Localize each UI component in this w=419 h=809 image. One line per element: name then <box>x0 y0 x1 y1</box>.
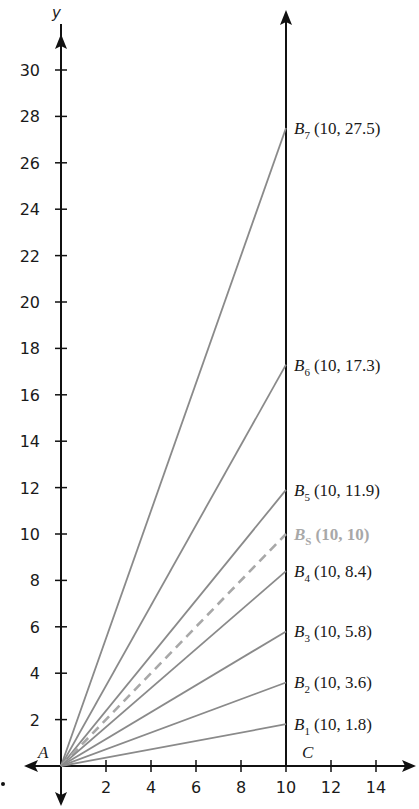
x-tick-label: 14 <box>366 778 386 797</box>
y-tick-label: 26 <box>20 154 40 173</box>
ray-labels: B7(10, 27.5)B6(10, 17.3)B5(10, 11.9)BS(1… <box>293 119 380 737</box>
point-label-b4: B4(10, 8.4) <box>294 562 372 584</box>
x-tick-label: 8 <box>236 778 246 797</box>
x-tick-label: 4 <box>146 778 156 797</box>
point-label-b3: B3(10, 5.8) <box>294 622 372 644</box>
y-tick-label: 16 <box>20 386 40 405</box>
point-label-b1: B1(10, 1.8) <box>294 715 372 737</box>
stray-dot <box>1 782 5 786</box>
point-label-b2: B2(10, 3.6) <box>294 673 372 695</box>
point-label-b7: B7(10, 27.5) <box>294 119 380 141</box>
ray-b6 <box>61 365 286 766</box>
x-tick-label: 10 <box>276 778 296 797</box>
x-tick-label: 2 <box>101 778 111 797</box>
ray-b7 <box>61 128 286 766</box>
point-a-label: A <box>37 743 49 762</box>
point-label-b5: B5(10, 11.9) <box>294 481 380 503</box>
y-tick-label: 6 <box>30 618 40 637</box>
y-tick-label: 18 <box>20 339 40 358</box>
point-c-label: C <box>302 743 314 762</box>
y-axis-label: y <box>51 4 62 22</box>
x-tick-label: 12 <box>321 778 341 797</box>
point-label-bs: BS(10, 10) <box>293 525 369 547</box>
tick-marks <box>55 70 376 772</box>
point-label-b6: B6(10, 17.3) <box>294 356 380 378</box>
y-tick-label: 10 <box>20 525 40 544</box>
y-tick-label: 8 <box>30 571 40 590</box>
y-tick-label: 30 <box>20 61 40 80</box>
y-tick-label: 14 <box>20 432 40 451</box>
y-tick-label: 28 <box>20 107 40 126</box>
rays <box>61 128 286 766</box>
y-tick-label: 12 <box>20 479 40 498</box>
y-tick-label: 20 <box>20 293 40 312</box>
x-tick-label: 6 <box>191 778 201 797</box>
y-tick-label: 4 <box>30 664 40 683</box>
coordinate-diagram: 246810121424681012141618202224262830 y B… <box>0 0 419 809</box>
y-tick-label: 22 <box>20 247 40 266</box>
y-tick-label: 2 <box>30 711 40 730</box>
y-tick-label: 24 <box>20 200 40 219</box>
